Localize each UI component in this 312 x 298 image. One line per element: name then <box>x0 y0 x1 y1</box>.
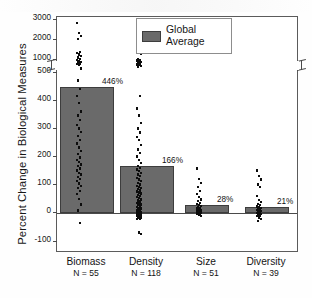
bar-value-label-biomass: 446% <box>102 77 123 86</box>
data-point <box>77 114 79 116</box>
legend-swatch-global-average <box>142 31 161 42</box>
data-point <box>257 220 259 222</box>
data-point <box>78 198 80 200</box>
y-tick-label: 3000 <box>33 13 51 22</box>
x-category-sample-size: N = 55 <box>56 268 116 278</box>
data-point <box>79 139 81 141</box>
data-point <box>136 136 138 138</box>
data-point <box>140 162 142 164</box>
data-point <box>200 198 202 200</box>
data-point <box>139 175 141 177</box>
bar-value-label-size: 28% <box>217 195 233 204</box>
x-axis-category-biomass: BiomassN = 55 <box>56 256 116 278</box>
data-point <box>196 167 198 169</box>
data-point <box>78 64 80 66</box>
data-point <box>140 65 142 67</box>
data-point <box>78 127 80 129</box>
legend: Global Average <box>136 18 232 54</box>
bar-diversity[interactable] <box>245 207 289 213</box>
data-point <box>260 178 262 180</box>
data-point <box>256 169 258 171</box>
data-point <box>77 79 79 81</box>
data-point <box>79 119 81 121</box>
bar-value-label-diversity: 21% <box>277 197 293 206</box>
data-point <box>140 144 142 146</box>
x-category-sample-size: N = 118 <box>116 268 176 278</box>
x-axis-category-density: DensityN = 118 <box>116 256 176 278</box>
data-point <box>140 180 142 182</box>
axis-break-gap-right <box>296 61 299 70</box>
bar-biomass[interactable] <box>60 87 114 213</box>
legend-label-line2: Average <box>166 36 205 48</box>
data-point <box>137 65 139 67</box>
data-point <box>80 110 82 112</box>
bar-density[interactable] <box>120 166 174 213</box>
x-category-name: Size <box>176 256 236 267</box>
data-point <box>200 182 202 184</box>
data-point <box>78 146 80 148</box>
y-tick-mark <box>53 156 57 157</box>
y-tick-label: -100 <box>35 235 51 244</box>
data-point <box>139 167 141 169</box>
y-tick-mark <box>53 128 57 129</box>
y-tick-mark <box>53 100 57 101</box>
data-point <box>258 175 260 177</box>
data-point <box>79 178 81 180</box>
data-point <box>76 22 78 24</box>
data-point <box>138 159 140 161</box>
data-point <box>78 102 80 104</box>
y-axis-title: Percent Change in Biological Measures <box>16 28 28 260</box>
y-tick-label: 0 <box>46 206 51 215</box>
data-point <box>138 139 140 141</box>
data-point <box>137 127 139 129</box>
data-point <box>79 156 81 158</box>
y-tick-mark <box>53 212 57 213</box>
data-point <box>136 155 138 157</box>
legend-label-line1: Global <box>166 24 205 36</box>
data-point <box>80 203 82 205</box>
data-point <box>137 148 139 150</box>
data-point <box>80 173 82 175</box>
watermark-strip <box>0 0 312 12</box>
x-category-name: Biomass <box>56 256 116 267</box>
data-point <box>138 114 140 116</box>
y-tick-mark <box>53 241 57 242</box>
data-point <box>76 95 78 97</box>
data-point <box>80 35 82 37</box>
x-axis-category-diversity: DiversityN = 39 <box>236 256 296 278</box>
data-point <box>77 209 79 211</box>
axis-break-gap-left <box>55 61 58 70</box>
x-category-name: Density <box>116 256 176 267</box>
bar-size[interactable] <box>185 205 229 213</box>
data-point <box>136 218 138 220</box>
figure: Percent Change in Biological Measures -1… <box>0 0 312 298</box>
data-point <box>79 190 81 192</box>
data-point <box>76 142 78 144</box>
bar-value-label-density: 166% <box>162 156 183 165</box>
y-tick-mark <box>53 39 57 40</box>
legend-label-global-average: Global Average <box>166 24 205 47</box>
data-point <box>76 193 78 195</box>
data-point <box>77 135 79 137</box>
data-point <box>197 186 199 188</box>
data-point <box>139 152 141 154</box>
x-category-name: Diversity <box>236 256 296 267</box>
data-point <box>140 172 142 174</box>
data-point <box>140 122 142 124</box>
data-point <box>80 150 82 152</box>
data-point <box>198 178 200 180</box>
data-point <box>140 233 142 235</box>
data-point <box>139 95 141 97</box>
data-point <box>199 190 201 192</box>
data-point <box>256 195 258 197</box>
data-point <box>79 167 81 169</box>
y-tick-mark <box>53 184 57 185</box>
data-point <box>80 185 82 187</box>
x-axis-category-size: SizeN = 51 <box>176 256 236 278</box>
y-tick-label: 400 <box>37 94 51 103</box>
data-point <box>80 163 82 165</box>
data-point <box>80 131 82 133</box>
data-point <box>79 222 81 224</box>
y-tick-label: 100 <box>37 178 51 187</box>
data-point <box>259 186 261 188</box>
